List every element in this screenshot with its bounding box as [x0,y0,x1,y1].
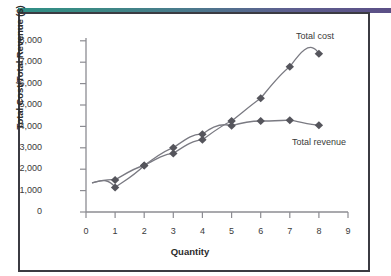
series-line-total-revenue [92,120,319,183]
x-tick-label-5: 5 [224,226,240,236]
series-annotation-total-cost: Total cost [296,31,334,41]
x-tick-label-6: 6 [253,226,269,236]
y-tick-label-1000: 1,000 [0,185,42,195]
series-annotation-total-revenue: Total revenue [292,137,346,147]
chart-figure: 8,000 7,000 6,000 5,000 4,000 3,000 2,00… [0,0,391,276]
x-tick-label-0: 0 [78,226,94,236]
x-tick-label-4: 4 [194,226,210,236]
series-line-total-cost [92,47,319,187]
x-axis-ticks [86,212,348,218]
y-tick-label-0: 0 [0,206,42,216]
x-tick-label-3: 3 [165,226,181,236]
y-tick-label-2000: 2,000 [0,163,42,173]
x-tick-label-7: 7 [282,226,298,236]
x-tick-label-2: 2 [136,226,152,236]
y-axis-title: Total Cost/Total Revenue ($) [14,0,25,163]
x-tick-label-8: 8 [311,226,327,236]
x-axis-title: Quantity [60,246,320,257]
y-axis-ticks [80,41,86,212]
x-tick-label-9: 9 [340,226,356,236]
x-tick-label-1: 1 [107,226,123,236]
